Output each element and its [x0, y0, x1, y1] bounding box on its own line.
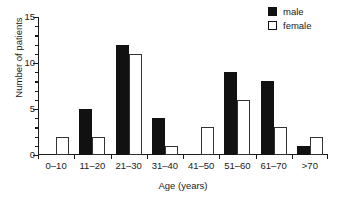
x-tick-label: 31–40: [152, 160, 178, 172]
y-axis-tick-labels: 051015: [17, 0, 35, 204]
bar-female-21–30: [129, 54, 142, 155]
bar-male-21–30: [116, 45, 129, 155]
legend-item-male: male: [268, 6, 312, 17]
bar-female->70: [310, 137, 323, 155]
x-tick-label: 11–20: [80, 160, 106, 172]
x-axis-title: Age (years): [38, 180, 328, 191]
x-tick: [111, 155, 112, 159]
bar-female-31–40: [165, 146, 178, 155]
bar-female-11–20: [92, 137, 105, 155]
bar-female-61–70: [274, 127, 287, 155]
x-tick: [219, 155, 220, 159]
bar-female-0–10: [56, 137, 69, 155]
x-tick-label: 0–10: [46, 160, 67, 172]
x-tick: [38, 155, 39, 159]
filled-square-icon: [268, 7, 277, 16]
x-tick: [147, 155, 148, 159]
x-tick: [327, 155, 328, 159]
x-tick-label: 41–50: [188, 160, 214, 172]
bar-chart-figure: male female Number of patients 051015 0–…: [0, 0, 345, 204]
bar-female-51–60: [237, 100, 250, 155]
bar-female-41–50: [201, 127, 214, 155]
legend-label-male: male: [283, 7, 304, 17]
bar-male->70: [297, 146, 310, 155]
x-axis-tick-labels: 0–1011–2021–3031–4041–5051–6061–70>70: [38, 160, 328, 174]
x-tick: [292, 155, 293, 159]
bar-series-container: [38, 17, 328, 155]
plot-area: [38, 17, 328, 155]
bar-male-61–70: [261, 81, 274, 155]
x-tick-label: 51–60: [224, 160, 250, 172]
x-tick-label: 61–70: [260, 160, 286, 172]
x-tick: [183, 155, 184, 159]
bar-male-11–20: [79, 109, 92, 155]
x-tick: [74, 155, 75, 159]
x-tick-label: 21–30: [115, 160, 141, 172]
bar-male-51–60: [224, 72, 237, 155]
x-tick: [256, 155, 257, 159]
x-tick-label: >70: [302, 160, 318, 172]
bar-male-31–40: [152, 118, 165, 155]
